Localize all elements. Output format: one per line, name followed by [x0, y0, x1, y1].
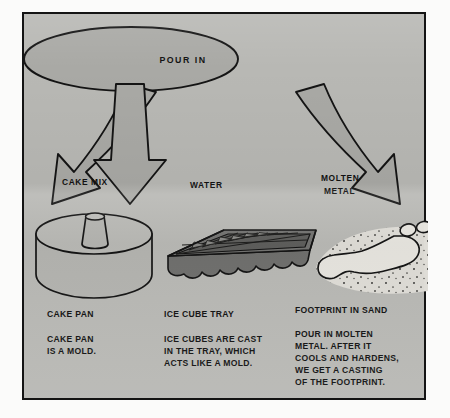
water-arrow-label: WATER: [190, 180, 223, 190]
diagram-panel: POUR IN CAKE MIX WATER MOLTEN METAL CAKE…: [22, 12, 426, 400]
cake-mix-arrow-label: CAKE MIX: [62, 177, 108, 187]
ice-cube-tray-heading: ICE CUBE TRAY: [164, 309, 234, 319]
cake-pan-body-line-1: CAKE PAN: [47, 334, 94, 346]
footprint-in-sand-body-line-1: POUR IN MOLTEN: [295, 329, 373, 341]
footprint-in-sand-illustration: [300, 210, 428, 310]
ice-cube-tray-body-line-2: IN THE TRAY, WHICH: [164, 346, 256, 358]
cake-pan-illustration: [36, 213, 152, 298]
pour-in-label: POUR IN: [103, 55, 263, 65]
cake-pan-body-line-2: IS A MOLD.: [47, 346, 96, 358]
footprint-in-sand-heading: FOOTPRINT IN SAND: [295, 305, 387, 315]
footprint-in-sand-body-line-5: OF THE FOOTPRINT.: [295, 377, 385, 389]
ice-cube-tray-illustration: [168, 230, 316, 278]
ice-cube-tray-body-line-1: ICE CUBES ARE CAST: [164, 334, 262, 346]
molten-metal-arrow-label-line1: MOLTEN: [321, 173, 359, 183]
footprint-in-sand-body-line-3: COOLS AND HARDENS,: [295, 353, 399, 365]
cake-pan-heading: CAKE PAN: [47, 309, 94, 319]
molten-metal-arrow-label-line2: METAL: [324, 186, 355, 196]
footprint-in-sand-body-line-2: METAL. AFTER IT: [295, 341, 372, 353]
illustration-page: POUR IN CAKE MIX WATER MOLTEN METAL CAKE…: [0, 0, 450, 418]
ice-cube-tray-body-line-3: ACTS LIKE A MOLD.: [164, 358, 253, 370]
footprint-in-sand-body-line-4: WE GET A CASTING: [295, 365, 383, 377]
